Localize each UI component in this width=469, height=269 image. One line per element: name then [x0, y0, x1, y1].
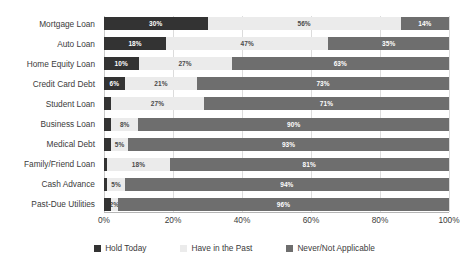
bar-segment: 18% — [107, 158, 169, 171]
bar-segment: 56% — [208, 17, 401, 30]
legend-swatch-icon — [286, 245, 293, 252]
bar-segment: 47% — [166, 37, 328, 50]
legend-item[interactable]: Have in the Past — [180, 243, 252, 253]
x-tick-label: 0% — [98, 215, 110, 225]
bar-segment — [104, 118, 111, 131]
category-label: Credit Card Debt — [0, 77, 100, 90]
bar-rows: 30%56%14%18%47%35%10%27%63%6%21%73%27%71… — [104, 16, 449, 212]
bar-segment: 18% — [104, 37, 166, 50]
category-label: Cash Advance — [0, 178, 100, 191]
x-axis-line — [104, 212, 449, 213]
legend-label: Never/Not Applicable — [297, 243, 374, 253]
bar-value-label: 71% — [320, 100, 333, 107]
bar-value-label: 63% — [334, 60, 347, 67]
bar-segment — [104, 97, 111, 110]
legend-item[interactable]: Hold Today — [94, 243, 146, 253]
bar-row: 8%90% — [104, 118, 449, 131]
category-axis-labels: Mortgage LoanAuto LoanHome Equity LoanCr… — [0, 16, 100, 212]
category-label: Mortgage Loan — [0, 17, 100, 30]
bar-value-label: 81% — [303, 161, 316, 168]
category-label: Past-Due Utilities — [0, 198, 100, 211]
bar-value-label: 27% — [151, 100, 164, 107]
bar-value-label: 27% — [178, 60, 191, 67]
legend-item[interactable]: Never/Not Applicable — [286, 243, 374, 253]
bar-value-label: 93% — [282, 141, 295, 148]
bar-segment: 94% — [125, 178, 449, 191]
bar-row: 2%96% — [104, 198, 449, 211]
bar-value-label: 35% — [382, 40, 395, 47]
bar-value-label: 73% — [316, 80, 329, 87]
bar-value-label: 2% — [111, 201, 118, 208]
x-tick-label: 20% — [165, 215, 182, 225]
bar-segment: 27% — [111, 97, 204, 110]
bar-segment: 73% — [197, 77, 449, 90]
bar-segment — [104, 198, 111, 211]
legend-label: Hold Today — [105, 243, 146, 253]
bar-value-label: 96% — [277, 201, 290, 208]
bar-row: 27%71% — [104, 97, 449, 110]
bar-segment: 93% — [128, 138, 449, 151]
chart-legend: Hold TodayHave in the PastNever/Not Appl… — [0, 243, 469, 253]
bar-value-label: 6% — [110, 80, 120, 87]
bar-segment: 14% — [401, 17, 449, 30]
x-tick-label: 80% — [372, 215, 389, 225]
bar-row: 30%56%14% — [104, 17, 449, 30]
category-label: Home Equity Loan — [0, 57, 100, 70]
bar-segment: 81% — [170, 158, 449, 171]
bar-segment: 27% — [139, 57, 232, 70]
bar-row: 5%93% — [104, 138, 449, 151]
x-axis-ticks: 0%20%40%60%80%100% — [104, 215, 449, 229]
legend-label: Have in the Past — [191, 243, 252, 253]
bar-row: 10%27%63% — [104, 57, 449, 70]
bar-row: 18%47%35% — [104, 37, 449, 50]
bar-segment: 63% — [232, 57, 449, 70]
bar-segment: 5% — [111, 138, 128, 151]
category-label: Medical Debt — [0, 138, 100, 151]
bar-segment: 21% — [125, 77, 197, 90]
category-label: Student Loan — [0, 97, 100, 110]
bar-segment: 5% — [107, 178, 124, 191]
x-tick-label: 100% — [438, 215, 459, 225]
gridline-100pct — [449, 16, 450, 212]
bar-row: 18%81% — [104, 158, 449, 171]
bar-value-label: 5% — [111, 181, 121, 188]
x-tick-label: 60% — [303, 215, 320, 225]
bar-value-label: 56% — [297, 20, 310, 27]
category-label: Business Loan — [0, 118, 100, 131]
bar-value-label: 47% — [241, 40, 254, 47]
legend-swatch-icon — [180, 245, 187, 252]
bar-value-label: 14% — [418, 20, 431, 27]
bar-row: 5%94% — [104, 178, 449, 191]
bar-segment: 71% — [204, 97, 449, 110]
plot-area: 30%56%14%18%47%35%10%27%63%6%21%73%27%71… — [104, 16, 449, 212]
bar-value-label: 90% — [287, 121, 300, 128]
bar-segment: 6% — [104, 77, 125, 90]
legend-swatch-icon — [94, 245, 101, 252]
bar-segment — [104, 138, 111, 151]
bar-value-label: 5% — [115, 141, 125, 148]
bar-value-label: 94% — [280, 181, 293, 188]
bar-value-label: 18% — [132, 161, 145, 168]
category-label: Family/Friend Loan — [0, 158, 100, 171]
bar-segment: 30% — [104, 17, 208, 30]
bar-segment: 96% — [118, 198, 449, 211]
bar-value-label: 8% — [120, 121, 130, 128]
bar-segment: 2% — [111, 198, 118, 211]
bar-segment: 8% — [111, 118, 139, 131]
bar-value-label: 10% — [115, 60, 128, 67]
x-tick-label: 40% — [234, 215, 251, 225]
bar-segment: 90% — [138, 118, 449, 131]
category-label: Auto Loan — [0, 37, 100, 50]
bar-segment: 35% — [328, 37, 449, 50]
bar-segment: 10% — [104, 57, 139, 70]
bar-value-label: 21% — [154, 80, 167, 87]
bar-value-label: 30% — [149, 20, 162, 27]
bar-row: 6%21%73% — [104, 77, 449, 90]
stacked-bar-chart: Mortgage LoanAuto LoanHome Equity LoanCr… — [0, 0, 469, 269]
bar-value-label: 18% — [128, 40, 141, 47]
